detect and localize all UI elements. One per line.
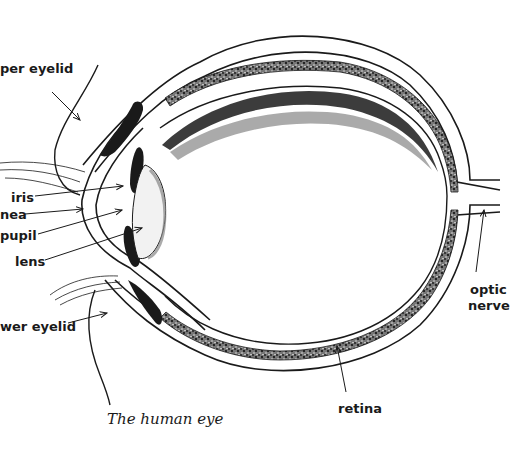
figure-caption: The human eye	[107, 410, 223, 428]
retina-leader	[337, 346, 346, 392]
label-cornea: nea	[0, 208, 27, 221]
label-optic-nerve-line2: nerve	[468, 299, 510, 312]
optic-nerve-leader	[476, 210, 484, 272]
label-lower-eyelid: wer eyelid	[0, 320, 76, 333]
eye-illustration	[0, 0, 523, 457]
pupil-leader	[38, 210, 122, 234]
label-optic-nerve-line1: optic	[470, 283, 507, 296]
label-retina: retina	[338, 402, 382, 415]
upper-eyelid	[0, 65, 143, 195]
lower-eyelid	[50, 276, 162, 405]
label-upper-eyelid: per eyelid	[0, 62, 73, 75]
cornea-leader	[25, 209, 83, 214]
label-pupil: pupil	[0, 229, 37, 242]
label-lens: lens	[15, 255, 45, 268]
label-iris: iris	[11, 191, 34, 204]
eye-diagram: per eyelid iris nea pupil lens wer eyeli…	[0, 0, 523, 457]
choroid-shading	[162, 91, 438, 172]
